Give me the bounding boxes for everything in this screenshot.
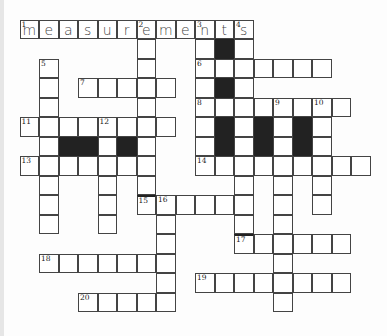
- crossword-cell[interactable]: [98, 176, 118, 196]
- crossword-cell[interactable]: [332, 156, 352, 176]
- crossword-cell[interactable]: [312, 273, 332, 293]
- crossword-cell[interactable]: [137, 59, 157, 79]
- crossword-cell[interactable]: 7: [78, 78, 98, 98]
- crossword-cell[interactable]: [234, 137, 254, 157]
- crossword-cell[interactable]: [254, 59, 274, 79]
- crossword-cell[interactable]: [293, 273, 313, 293]
- crossword-cell[interactable]: [273, 293, 293, 313]
- crossword-cell[interactable]: u: [98, 20, 118, 40]
- crossword-cell[interactable]: 3n: [195, 20, 215, 40]
- crossword-cell[interactable]: [234, 59, 254, 79]
- crossword-cell[interactable]: [293, 59, 313, 79]
- crossword-cell[interactable]: [117, 156, 137, 176]
- crossword-cell[interactable]: [156, 293, 176, 313]
- crossword-cell[interactable]: 8: [195, 98, 215, 118]
- crossword-cell[interactable]: [195, 195, 215, 215]
- crossword-cell[interactable]: [156, 117, 176, 137]
- crossword-cell[interactable]: [293, 98, 313, 118]
- crossword-cell[interactable]: [215, 59, 235, 79]
- crossword-cell[interactable]: 5: [39, 59, 59, 79]
- crossword-cell[interactable]: [234, 98, 254, 118]
- crossword-cell[interactable]: [254, 98, 274, 118]
- crossword-cell[interactable]: [156, 234, 176, 254]
- crossword-cell[interactable]: [273, 156, 293, 176]
- crossword-cell[interactable]: 10: [312, 98, 332, 118]
- crossword-cell[interactable]: [98, 254, 118, 274]
- crossword-cell[interactable]: e: [39, 20, 59, 40]
- crossword-cell[interactable]: [59, 117, 79, 137]
- crossword-cell[interactable]: 9: [273, 98, 293, 118]
- crossword-cell[interactable]: [59, 156, 79, 176]
- crossword-cell[interactable]: [293, 234, 313, 254]
- crossword-cell[interactable]: [312, 117, 332, 137]
- crossword-cell[interactable]: [332, 98, 352, 118]
- crossword-cell[interactable]: [273, 176, 293, 196]
- crossword-cell[interactable]: [312, 234, 332, 254]
- crossword-cell[interactable]: [215, 273, 235, 293]
- crossword-cell[interactable]: [234, 273, 254, 293]
- crossword-cell[interactable]: [273, 137, 293, 157]
- crossword-cell[interactable]: [137, 156, 157, 176]
- crossword-cell[interactable]: [312, 195, 332, 215]
- crossword-cell[interactable]: 11: [20, 117, 40, 137]
- crossword-cell[interactable]: [312, 156, 332, 176]
- crossword-cell[interactable]: [39, 137, 59, 157]
- crossword-cell[interactable]: [332, 234, 352, 254]
- crossword-cell[interactable]: 4s: [234, 20, 254, 40]
- crossword-cell[interactable]: [312, 137, 332, 157]
- crossword-cell[interactable]: [273, 59, 293, 79]
- crossword-cell[interactable]: [234, 39, 254, 59]
- crossword-cell[interactable]: [215, 195, 235, 215]
- crossword-cell[interactable]: 19: [195, 273, 215, 293]
- crossword-cell[interactable]: [137, 293, 157, 313]
- crossword-cell[interactable]: [254, 156, 274, 176]
- crossword-cell[interactable]: [98, 78, 118, 98]
- crossword-cell[interactable]: [39, 195, 59, 215]
- crossword-cell[interactable]: [39, 117, 59, 137]
- crossword-cell[interactable]: [273, 195, 293, 215]
- crossword-cell[interactable]: [254, 234, 274, 254]
- crossword-cell[interactable]: [273, 117, 293, 137]
- crossword-cell[interactable]: [273, 234, 293, 254]
- crossword-cell[interactable]: [117, 254, 137, 274]
- crossword-cell[interactable]: [98, 195, 118, 215]
- crossword-cell[interactable]: [137, 117, 157, 137]
- crossword-cell[interactable]: [312, 176, 332, 196]
- crossword-cell[interactable]: [234, 176, 254, 196]
- crossword-cell[interactable]: [195, 78, 215, 98]
- crossword-cell[interactable]: [137, 254, 157, 274]
- crossword-cell[interactable]: [273, 215, 293, 235]
- crossword-cell[interactable]: [254, 273, 274, 293]
- crossword-cell[interactable]: 15: [137, 195, 157, 215]
- crossword-cell[interactable]: r: [117, 20, 137, 40]
- crossword-cell[interactable]: [156, 215, 176, 235]
- crossword-cell[interactable]: [234, 156, 254, 176]
- crossword-cell[interactable]: [195, 39, 215, 59]
- crossword-cell[interactable]: [137, 39, 157, 59]
- crossword-cell[interactable]: e: [176, 20, 196, 40]
- crossword-cell[interactable]: t: [215, 20, 235, 40]
- crossword-cell[interactable]: [39, 98, 59, 118]
- crossword-cell[interactable]: s: [78, 20, 98, 40]
- crossword-cell[interactable]: [78, 254, 98, 274]
- crossword-cell[interactable]: [156, 254, 176, 274]
- crossword-cell[interactable]: [137, 137, 157, 157]
- crossword-cell[interactable]: [39, 78, 59, 98]
- crossword-cell[interactable]: [59, 254, 79, 274]
- crossword-cell[interactable]: [98, 293, 118, 313]
- crossword-cell[interactable]: [39, 215, 59, 235]
- crossword-cell[interactable]: 20: [78, 293, 98, 313]
- crossword-cell[interactable]: 13: [20, 156, 40, 176]
- crossword-cell[interactable]: [273, 254, 293, 274]
- crossword-cell[interactable]: [332, 273, 352, 293]
- crossword-cell[interactable]: [234, 215, 254, 235]
- crossword-cell[interactable]: [137, 98, 157, 118]
- crossword-cell[interactable]: [78, 156, 98, 176]
- crossword-cell[interactable]: [351, 156, 371, 176]
- crossword-cell[interactable]: 18: [39, 254, 59, 274]
- crossword-cell[interactable]: [137, 176, 157, 196]
- crossword-cell[interactable]: [234, 117, 254, 137]
- crossword-cell[interactable]: [39, 156, 59, 176]
- crossword-cell[interactable]: 14: [195, 156, 215, 176]
- crossword-cell[interactable]: [195, 117, 215, 137]
